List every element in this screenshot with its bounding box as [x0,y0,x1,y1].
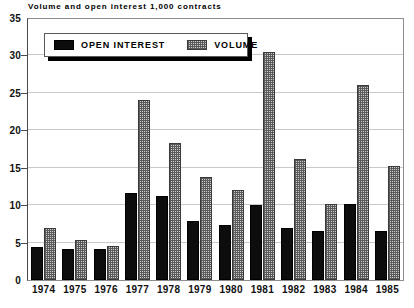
bar-open-interest [94,249,106,280]
legend-entry-volume: VOLUME [187,40,258,50]
x-tick-label: 1982 [278,284,309,295]
bar-open-interest [156,196,168,280]
x-axis: 1974197519761977197819791980198119821983… [28,284,403,304]
y-tick-label: 25 [9,87,21,98]
bar-open-interest [219,225,231,280]
bar-volume [357,85,369,280]
x-tick-label: 1985 [372,284,403,295]
x-tick-label: 1980 [216,284,247,295]
bar-group [250,18,276,280]
bar-volume [44,228,56,280]
bar-group [375,18,401,280]
x-tick-label: 1977 [122,284,153,295]
bar-open-interest [125,193,137,280]
bar-group [344,18,370,280]
x-tick-label: 1979 [184,284,215,295]
y-axis: 05101520253035 [0,0,27,308]
x-tick-label: 1981 [247,284,278,295]
chart-title: Volume and open interest 1,000 contracts [28,2,222,11]
bar-open-interest [62,249,74,280]
x-tick-label: 1983 [309,284,340,295]
bar-volume [263,52,275,280]
y-tick-label: 15 [9,162,21,173]
x-tick-label: 1974 [28,284,59,295]
y-tick-label: 30 [9,50,21,61]
chart-legend: OPEN INTEREST VOLUME [44,33,248,57]
legend-swatch-volume-icon [187,40,207,50]
bar-chart: Volume and open interest 1,000 contracts… [0,0,414,308]
bar-volume [294,159,306,280]
bar-open-interest [250,205,262,280]
bar-volume [325,204,337,280]
x-tick-label: 1978 [153,284,184,295]
bar-group [281,18,307,280]
x-tick-label: 1975 [59,284,90,295]
bar-volume [169,143,181,280]
legend-label-open-interest: OPEN INTEREST [81,40,165,50]
bar-open-interest [31,247,43,280]
bar-group [312,18,338,280]
y-tick-label: 35 [9,13,21,24]
bar-open-interest [187,221,199,280]
y-tick-label: 0 [15,275,21,286]
x-tick-label: 1984 [341,284,372,295]
bar-volume [75,240,87,280]
x-tick-label: 1976 [91,284,122,295]
bar-open-interest [312,231,324,280]
legend-entry-open-interest: OPEN INTEREST [54,40,165,50]
bar-open-interest [281,228,293,280]
y-tick-label: 20 [9,125,21,136]
bar-volume [388,166,400,280]
bar-open-interest [344,204,356,280]
bar-volume [107,246,119,280]
legend-swatch-open-interest-icon [54,40,74,50]
bar-volume [200,177,212,280]
legend-label-volume: VOLUME [214,40,258,50]
bar-volume [138,100,150,280]
bar-open-interest [375,231,387,280]
bar-volume [232,190,244,280]
y-tick-label: 10 [9,200,21,211]
